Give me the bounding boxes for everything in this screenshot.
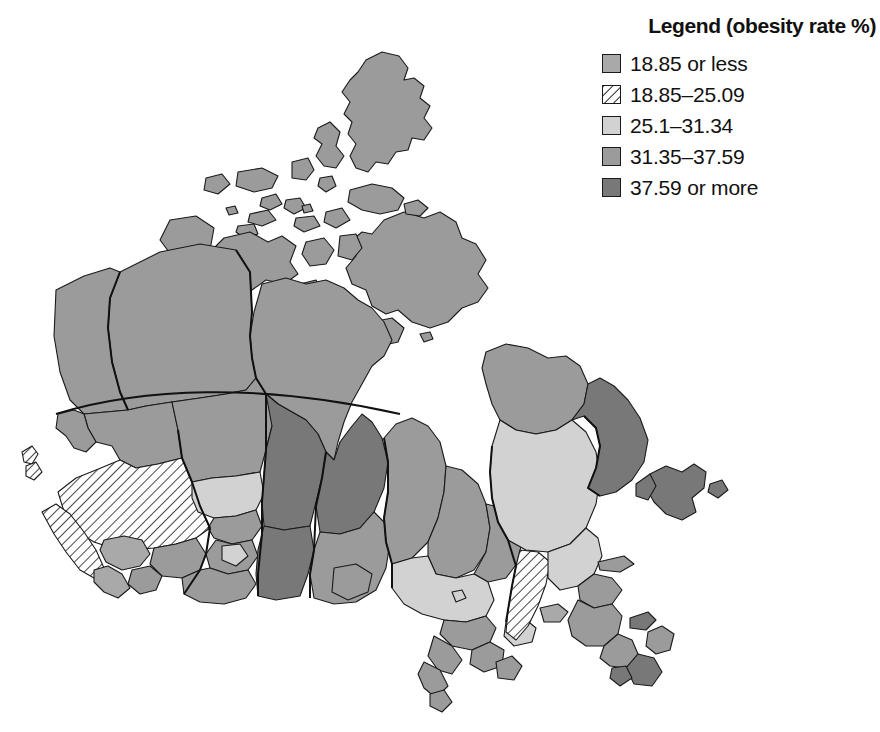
map-region-prince-edward-island[interactable] bbox=[630, 612, 656, 630]
map-region-newfoundland-islet[interactable] bbox=[708, 480, 728, 498]
map-region-axel-heiberg[interactable] bbox=[314, 122, 344, 168]
map-region-bylot[interactable] bbox=[404, 200, 428, 216]
map-region-bathurst[interactable] bbox=[292, 158, 314, 180]
map-region-ellesmere[interactable] bbox=[342, 52, 432, 172]
legend-swatch-icon bbox=[602, 85, 621, 104]
legend-swatch-icon bbox=[602, 178, 621, 197]
map-region-haida-gwaii[interactable] bbox=[22, 446, 38, 464]
legend-item-label: 25.1–31.34 bbox=[630, 115, 733, 136]
map-region-devon[interactable] bbox=[348, 184, 404, 214]
legend-item-label: 18.85 or less bbox=[630, 53, 748, 74]
map-region-island-c[interactable] bbox=[248, 210, 276, 226]
hatch-pattern-icon bbox=[603, 86, 620, 103]
map-region-northwest-territories[interactable] bbox=[108, 244, 256, 410]
legend-title: Legend (obesity rate %) bbox=[576, 14, 876, 38]
map-region-islet-3[interactable] bbox=[420, 332, 433, 342]
legend-item-0[interactable]: 18.85 or less bbox=[602, 48, 876, 79]
map-region-saskatchewan-south[interactable] bbox=[256, 526, 314, 600]
legend-swatch-icon bbox=[602, 116, 621, 135]
map-region-island-e[interactable] bbox=[324, 208, 350, 228]
map-region-vancouver-island-south[interactable] bbox=[94, 566, 130, 598]
legend-item-2[interactable]: 25.1–31.34 bbox=[602, 110, 876, 141]
legend-item-label: 31.35–37.59 bbox=[630, 146, 745, 167]
legend-swatch-icon bbox=[602, 147, 621, 166]
map-region-islet-5[interactable] bbox=[226, 206, 238, 215]
map-region-islet-4[interactable] bbox=[302, 204, 313, 213]
map-region-anticosti[interactable] bbox=[598, 556, 634, 572]
map-region-group-maritimes bbox=[568, 600, 674, 686]
legend-item-label: 18.85–25.09 bbox=[630, 84, 745, 105]
map-region-prince-of-wales[interactable] bbox=[302, 238, 334, 266]
legend-item-1[interactable]: 18.85–25.09 bbox=[602, 79, 876, 110]
map-region-cape-breton[interactable] bbox=[646, 626, 674, 654]
legend-item-label: 37.59 or more bbox=[630, 177, 758, 198]
map-legend: Legend (obesity rate %) 18.85 or less 18… bbox=[576, 14, 876, 203]
map-region-cornwallis[interactable] bbox=[318, 176, 336, 192]
map-region-haida-gwaii-south[interactable] bbox=[26, 462, 42, 480]
legend-item-4[interactable]: 37.59 or more bbox=[602, 172, 876, 203]
map-region-bc-lower-mainland[interactable] bbox=[100, 536, 150, 570]
map-region-melville[interactable] bbox=[236, 168, 278, 192]
map-region-prince-patrick[interactable] bbox=[204, 174, 230, 194]
map-region-newfoundland[interactable] bbox=[646, 464, 706, 520]
map-region-montreal[interactable] bbox=[540, 604, 568, 622]
legend-item-3[interactable]: 31.35–37.59 bbox=[602, 141, 876, 172]
map-region-island-d[interactable] bbox=[294, 216, 320, 232]
legend-swatch-icon bbox=[602, 54, 621, 73]
map-region-island-a[interactable] bbox=[260, 194, 282, 210]
map-region-ontario-tip-2[interactable] bbox=[430, 690, 452, 712]
map-region-alberta-south[interactable] bbox=[182, 568, 256, 604]
legend-item-list: 18.85 or less 18.85–25.09 25.1–31.34 31.… bbox=[576, 48, 876, 203]
